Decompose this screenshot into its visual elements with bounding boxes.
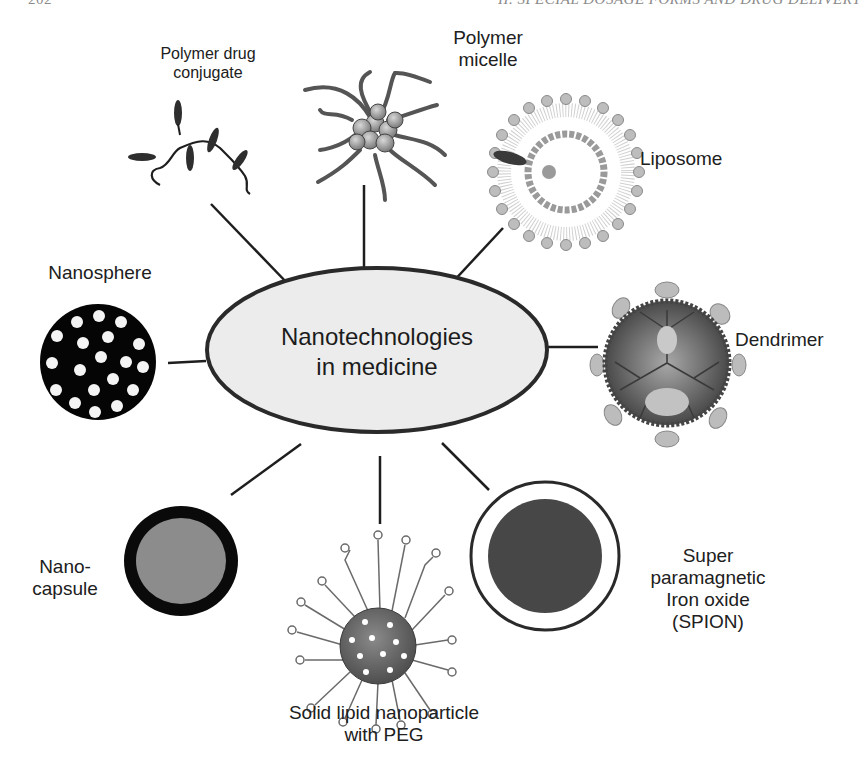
label-line: Iron oxide [638, 589, 778, 611]
label-nanosphere: Nanosphere [40, 262, 160, 284]
liposome-icon [488, 94, 645, 251]
label-polymer-drug-conjugate: Polymer drug conjugate [128, 44, 288, 82]
label-line: (SPION) [638, 611, 778, 633]
label-line: Super [638, 545, 778, 567]
nanosphere-icon [40, 304, 156, 420]
center-label-line2: in medicine [257, 352, 497, 382]
center-label: Nanotechnologies in medicine [257, 322, 497, 382]
label-spion: Super paramagnetic Iron oxide (SPION) [638, 545, 778, 633]
label-dendrimer: Dendrimer [735, 329, 845, 351]
spion-icon [471, 482, 619, 630]
label-line: conjugate [128, 63, 288, 82]
label-line: paramagnetic [638, 567, 778, 589]
label-line: with PEG [264, 724, 504, 746]
label-line: Nano- [25, 556, 105, 578]
label-line: Liposome [640, 148, 740, 170]
label-line: Polymer [438, 27, 538, 49]
label-polymer-micelle: Polymer micelle [438, 27, 538, 71]
polymer-drug-conjugate-icon [128, 100, 250, 194]
label-line: capsule [25, 578, 105, 600]
label-line: Nanosphere [40, 262, 160, 284]
label-line: Solid lipid nanoparticle [264, 702, 504, 724]
label-solid-lipid-nanoparticle: Solid lipid nanoparticle with PEG [264, 702, 504, 746]
label-line: Polymer drug [128, 44, 288, 63]
label-nanocapsule: Nano- capsule [25, 556, 105, 600]
label-line: Dendrimer [735, 329, 845, 351]
micelle-core [349, 104, 403, 152]
center-label-line1: Nanotechnologies [257, 322, 497, 352]
nanocapsule-icon [124, 506, 238, 616]
dendrimer-icon [590, 282, 746, 447]
label-liposome: Liposome [640, 148, 740, 170]
label-line: micelle [438, 49, 538, 71]
